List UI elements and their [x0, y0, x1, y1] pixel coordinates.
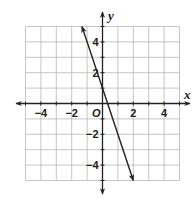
y-tick-label: 4: [92, 36, 99, 48]
x-tick-label: −4: [35, 107, 48, 119]
coordinate-plane: −4−22442−2−4 x y O: [0, 0, 195, 199]
y-axis-label: y: [106, 8, 114, 23]
x-tick-label: 4: [161, 107, 168, 119]
y-tick-label: −2: [86, 128, 99, 140]
x-axis-label: x: [183, 87, 191, 102]
y-tick-label: −4: [86, 159, 99, 171]
origin-label: O: [92, 107, 101, 119]
x-tick-label: 2: [130, 107, 136, 119]
x-tick-label: −2: [65, 107, 78, 119]
